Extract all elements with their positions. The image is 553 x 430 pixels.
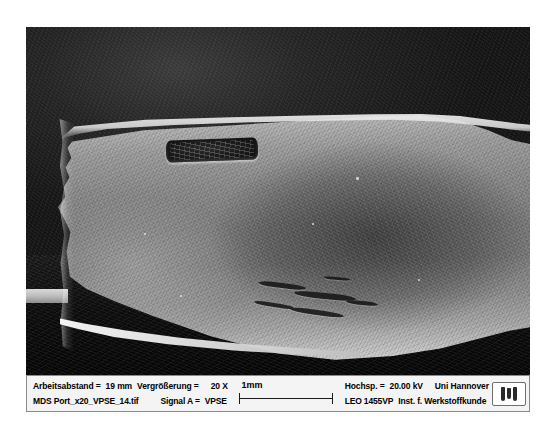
instrument-line: LEO 1455VP Inst. f. Werkstoffkunde	[345, 394, 489, 409]
streak	[290, 306, 344, 318]
magnification-label: Vergrößerung =	[137, 379, 199, 394]
instrument-model: LEO 1455VP	[345, 394, 394, 409]
surface-speck	[144, 233, 146, 235]
specimen-left-tab	[26, 289, 68, 303]
scale-bar-line	[239, 398, 333, 399]
working-distance-value: 19 mm	[106, 379, 132, 394]
filename-line: MDS Port_x20_VPSE_14.tif Signal A = VPSE	[33, 394, 235, 409]
surface-speck	[180, 295, 182, 297]
logo-bar	[507, 388, 511, 399]
machined-slot-feature	[166, 137, 259, 163]
image-filename: MDS Port_x20_VPSE_14.tif	[33, 394, 139, 409]
magnification-value: 20 X	[211, 379, 228, 394]
streak	[254, 300, 294, 310]
streak	[324, 276, 350, 281]
logo-bar	[513, 387, 517, 401]
surface-speck	[418, 279, 420, 281]
logo-cell	[489, 376, 529, 411]
institution-name: Uni Hannover	[435, 379, 489, 394]
scale-bar-group: 1mm	[235, 376, 340, 411]
scale-bar-icon	[239, 393, 333, 404]
voltage-label: Hochsp. =	[345, 379, 385, 394]
leo-logo-icon	[492, 382, 526, 406]
info-right-column: Hochsp. = 20.00 kV Uni Hannover LEO 1455…	[341, 376, 489, 411]
working-distance-line: Arbeitsabstand = 19 mm Vergrößerung = 20…	[33, 379, 235, 394]
surface-crack-streaks	[254, 277, 394, 323]
streak	[258, 280, 306, 291]
voltage-value: 20.00 kV	[390, 379, 423, 394]
info-left-column: Arbeitsabstand = 19 mm Vergrößerung = 20…	[27, 376, 235, 411]
micrograph-image	[26, 27, 530, 375]
surface-speck	[312, 223, 314, 225]
working-distance-label: Arbeitsabstand =	[33, 379, 101, 394]
department-name: Inst. f. Werkstoffkunde	[398, 394, 486, 409]
scale-bar-label: 1mm	[239, 379, 340, 391]
surface-speck	[356, 177, 359, 180]
scale-bar-right-cap	[332, 393, 333, 404]
signal-value: VPSE	[205, 394, 227, 409]
logo-bar	[501, 387, 505, 401]
streak	[346, 299, 378, 306]
sem-info-bar: Arbeitsabstand = 19 mm Vergrößerung = 20…	[26, 375, 530, 412]
signal-label: Signal A =	[161, 394, 200, 409]
voltage-line: Hochsp. = 20.00 kV Uni Hannover	[345, 379, 489, 394]
sem-figure: Arbeitsabstand = 19 mm Vergrößerung = 20…	[26, 27, 530, 412]
